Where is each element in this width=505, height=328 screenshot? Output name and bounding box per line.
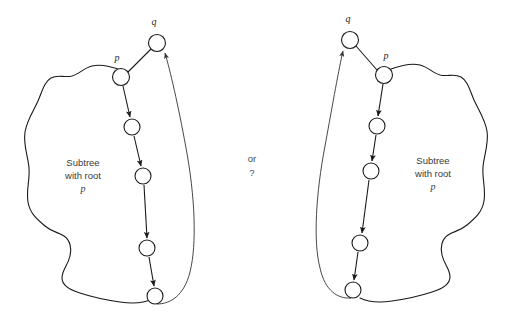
middle-question-label: ? (249, 167, 254, 178)
left-edge-n1-n2 (134, 136, 141, 166)
left-node-2[interactable] (135, 168, 151, 184)
left-node-4[interactable] (147, 288, 163, 304)
middle-connector: or ? (248, 153, 256, 178)
right-node-p-label: p (383, 50, 389, 61)
right-edge-p-q (356, 46, 377, 70)
left-alternative: q p Subtree with root p (25, 16, 195, 304)
right-edge-n2-n3 (362, 180, 369, 233)
middle-or-label: or (248, 153, 256, 164)
left-edge-n2-n3 (144, 185, 147, 238)
right-node-3[interactable] (352, 235, 368, 251)
right-node-1[interactable] (369, 118, 385, 134)
right-node-2[interactable] (363, 163, 379, 179)
right-edge-p-n1 (378, 84, 383, 116)
diagram-canvas: q p Subtree with root p or ? q p (0, 0, 505, 328)
right-caption-line2: with root (414, 168, 451, 179)
left-node-1[interactable] (124, 119, 140, 135)
left-node-p[interactable] (113, 69, 130, 86)
left-edge-n3-n4 (149, 257, 154, 286)
right-node-q[interactable] (342, 32, 359, 49)
left-caption-line1: Subtree (66, 157, 99, 168)
right-edge-n3-n4 (354, 252, 358, 280)
left-edge-p-q (128, 49, 151, 72)
left-node-q[interactable] (149, 35, 166, 52)
left-caption-line3: p (80, 183, 86, 194)
left-subtree-blob (25, 65, 152, 303)
right-node-4[interactable] (345, 282, 361, 298)
right-caption-line1: Subtree (416, 155, 449, 166)
left-node-3[interactable] (139, 240, 155, 256)
right-caption-line3: p (430, 181, 436, 192)
left-edge-p-n1 (123, 86, 130, 117)
right-alternative: q p Subtree with root p (316, 13, 487, 302)
left-backedge-n4-q (157, 53, 194, 304)
right-node-q-label: q (346, 13, 351, 24)
left-node-p-label: p (114, 52, 120, 63)
right-edge-n1-n2 (372, 135, 376, 161)
right-backedge-n4-q (316, 51, 351, 298)
left-caption-line2: with root (64, 170, 101, 181)
right-subtree-blob (360, 64, 487, 302)
right-node-p[interactable] (376, 67, 393, 84)
left-node-q-label: q (152, 16, 157, 27)
